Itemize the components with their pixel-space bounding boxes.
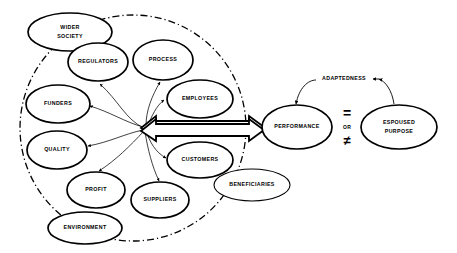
stakeholder-diagram: WIDER SOCIETY REGULATORS PROCESS EMPLOYE… bbox=[0, 0, 457, 253]
arc-purpose-upstroke bbox=[379, 79, 394, 104]
node-process[interactable]: PROCESS bbox=[133, 40, 193, 80]
arrow-hub-to-funders bbox=[90, 106, 143, 127]
comparison-operators: = OR ≠ bbox=[343, 105, 351, 149]
node-label-regulators: REGULATORS bbox=[78, 58, 118, 64]
node-funders[interactable]: FUNDERS bbox=[26, 85, 90, 123]
node-profit[interactable]: PROFIT bbox=[67, 172, 125, 208]
arrow-hub-to-quality bbox=[88, 130, 143, 146]
node-label-funders: FUNDERS bbox=[44, 100, 72, 106]
node-label-espoused-purpose-line1: ESPOUSED bbox=[383, 119, 415, 125]
arc-adaptedness-to-performance bbox=[296, 80, 316, 104]
node-label-employees: EMPLOYEES bbox=[182, 95, 218, 101]
node-beneficiaries[interactable]: BENEFICIARIES bbox=[214, 169, 290, 201]
operator-not-equals: ≠ bbox=[343, 133, 350, 148]
diagram-canvas: WIDER SOCIETY REGULATORS PROCESS EMPLOYE… bbox=[0, 0, 457, 253]
edge-label-adaptedness: ADAPTEDNESS bbox=[322, 75, 366, 81]
node-label-beneficiaries: BENEFICIARIES bbox=[229, 181, 275, 187]
node-label-suppliers: SUPPLIERS bbox=[143, 196, 176, 202]
node-quality[interactable]: QUALITY bbox=[27, 131, 87, 169]
node-label-customers: CUSTOMERS bbox=[182, 156, 219, 162]
operator-equals: = bbox=[343, 105, 351, 121]
operator-or: OR bbox=[343, 124, 351, 130]
arrow-hub-to-profit bbox=[99, 131, 144, 171]
node-customers[interactable]: CUSTOMERS bbox=[167, 142, 233, 178]
node-label-wider-society-line2: SOCIETY bbox=[57, 33, 83, 39]
node-label-performance: PERFORMANCE bbox=[274, 123, 319, 129]
node-suppliers[interactable]: SUPPLIERS bbox=[131, 182, 189, 218]
node-label-quality: QUALITY bbox=[44, 146, 70, 152]
node-regulators[interactable]: REGULATORS bbox=[68, 43, 128, 81]
node-performance[interactable]: PERFORMANCE bbox=[262, 105, 332, 149]
node-label-espoused-purpose-line2: PURPOSE bbox=[385, 128, 413, 134]
node-environment[interactable]: ENVIRONMENT bbox=[48, 212, 122, 244]
node-espoused-purpose[interactable]: ESPOUSED PURPOSE bbox=[361, 105, 437, 149]
node-label-environment: ENVIRONMENT bbox=[64, 224, 107, 230]
node-label-process: PROCESS bbox=[149, 56, 177, 62]
node-employees[interactable]: EMPLOYEES bbox=[167, 80, 233, 118]
arrow-hub-to-regulators bbox=[100, 84, 144, 128]
adaptedness-connector: ADAPTEDNESS bbox=[296, 75, 394, 104]
node-label-profit: PROFIT bbox=[85, 186, 107, 192]
node-label-wider-society-line1: WIDER bbox=[60, 24, 79, 30]
